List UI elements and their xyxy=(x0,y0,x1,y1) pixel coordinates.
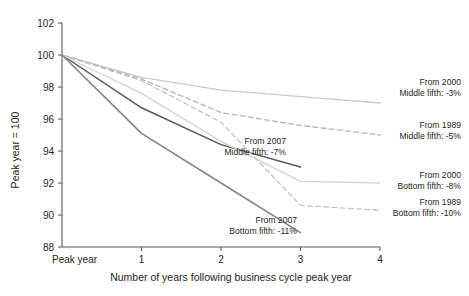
x-axis: Peak year1234 xyxy=(52,247,383,265)
annotation-line-1: From 1989 xyxy=(419,120,461,130)
ann-2007-bottom: From 2007Bottom fifth: -11% xyxy=(229,215,297,236)
annotation-line-2: Bottom fifth: -10% xyxy=(393,208,462,218)
x-axis-title: Number of years following business cycle… xyxy=(110,271,352,283)
y-tick-label: 94 xyxy=(43,146,55,157)
y-tick-label: 90 xyxy=(43,210,55,221)
ann-2000-bottom: From 2000Bottom fifth: -8% xyxy=(397,170,461,191)
ann-2007-middle: From 2007Middle fifth: -7% xyxy=(224,136,286,157)
chart-canvas: 889092949698100102 Peak year1234 From 20… xyxy=(0,0,469,296)
y-axis: 889092949698100102 xyxy=(37,18,62,253)
annotation-line-2: Middle fifth: -7% xyxy=(224,147,286,157)
annotation-line-1: From 2000 xyxy=(419,77,461,87)
annotation-line-1: From 1989 xyxy=(419,197,461,207)
y-tick-label: 100 xyxy=(37,50,54,61)
y-tick-label: 98 xyxy=(43,82,55,93)
annotation-line-2: Bottom fifth: -8% xyxy=(397,181,461,191)
y-tick-label: 92 xyxy=(43,178,55,189)
annotation-line-2: Middle fifth: -3% xyxy=(399,88,461,98)
line-chart: 889092949698100102 Peak year1234 From 20… xyxy=(0,0,469,296)
x-tick-label: Peak year xyxy=(52,254,98,265)
series-annotations: From 2000Middle fifth: -3%From 1989Middl… xyxy=(224,77,461,236)
series-line xyxy=(62,55,380,183)
x-tick-label: 3 xyxy=(298,254,304,265)
ann-1989-middle: From 1989Middle fifth: -5% xyxy=(399,120,461,141)
y-tick-label: 88 xyxy=(43,242,55,253)
series-lines xyxy=(62,55,380,233)
annotation-line-1: From 2007 xyxy=(255,215,297,225)
y-tick-label: 102 xyxy=(37,18,54,29)
y-axis-title: Peak year = 100 xyxy=(9,111,21,188)
annotation-line-2: Middle fifth: -5% xyxy=(399,131,461,141)
x-tick-label: 1 xyxy=(139,254,145,265)
annotation-line-1: From 2000 xyxy=(419,170,461,180)
ann-2000-middle: From 2000Middle fifth: -3% xyxy=(399,77,461,98)
x-tick-label: 4 xyxy=(377,254,383,265)
y-tick-label: 96 xyxy=(43,114,55,125)
annotation-line-1: From 2007 xyxy=(244,136,286,146)
ann-1989-bottom: From 1989Bottom fifth: -10% xyxy=(393,197,462,218)
series-line xyxy=(62,55,380,103)
x-tick-label: 2 xyxy=(218,254,224,265)
annotation-line-2: Bottom fifth: -11% xyxy=(229,226,297,236)
